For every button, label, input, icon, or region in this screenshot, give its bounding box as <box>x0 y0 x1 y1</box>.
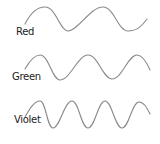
violet-wave <box>25 101 150 128</box>
green-wave <box>25 55 150 80</box>
red-label: Red <box>16 27 34 37</box>
violet-label: Violet <box>14 115 41 125</box>
green-label: Green <box>12 72 41 82</box>
red-wave <box>25 7 147 31</box>
wavelength-diagram: Red Green Violet <box>0 0 160 144</box>
